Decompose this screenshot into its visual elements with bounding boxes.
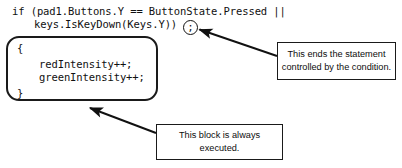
arrow-to-semicolon [200,30,278,57]
arrow-to-block [90,108,156,133]
callout-block-line-2: executed. [200,142,240,155]
semicolon-glyph: ; [184,20,197,35]
figure-canvas: if (pad1.Buttons.Y == ButtonState.Presse… [0,0,402,168]
callout-block-executed: This block is always executed. [156,124,283,160]
block-highlight-outline [6,36,158,101]
code-line-1: if (pad1.Buttons.Y == ButtonState.Presse… [12,5,286,18]
callout-statement-end: This ends the statement controlled by th… [277,42,396,80]
callout-statement-line-1: This ends the statement [287,48,385,61]
semicolon-circle-highlight: ; [183,20,198,35]
code-line-2: keys.IsKeyDown(Keys.Y)) [34,18,177,31]
callout-statement-line-2: controlled by the condition. [282,61,391,74]
callout-block-line-1: This block is always [179,129,260,142]
